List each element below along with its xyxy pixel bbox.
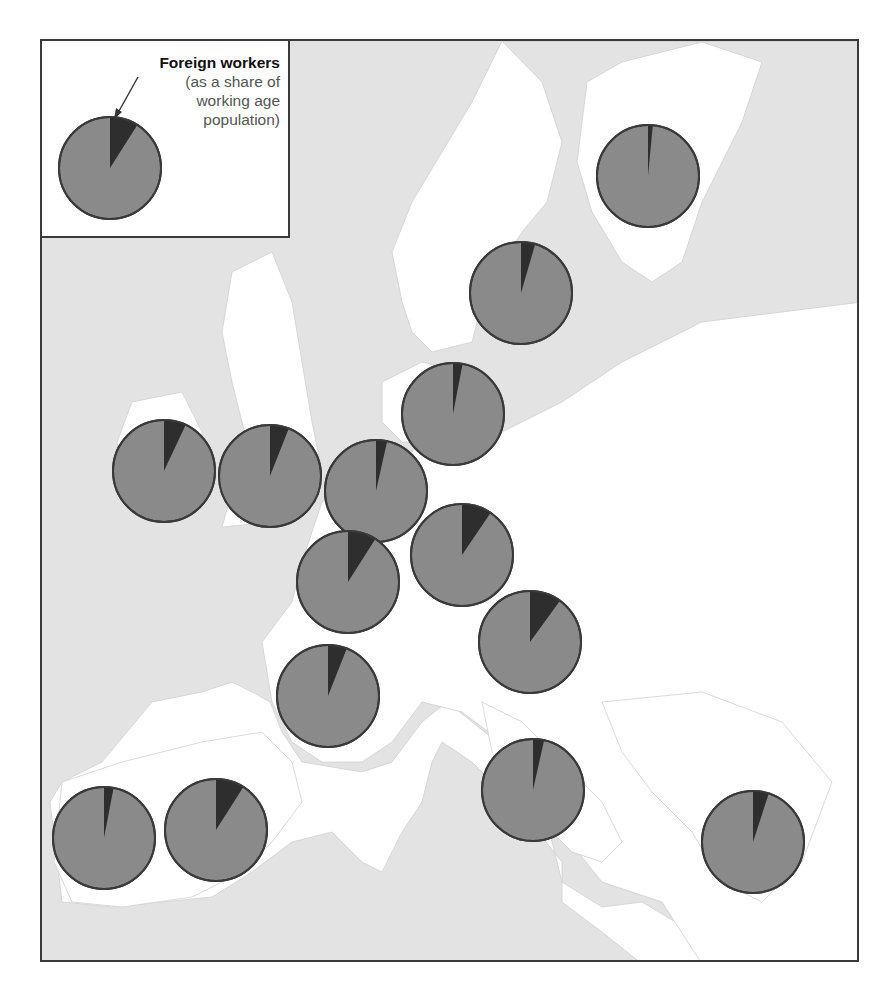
pie-austria	[479, 591, 581, 693]
pie-spain	[165, 779, 267, 881]
pie-portugal	[53, 787, 155, 889]
legend-arrow-icon	[119, 77, 138, 111]
legend-title-main: Foreign workers	[159, 53, 280, 72]
pie-denmark	[402, 363, 504, 465]
legend-title: Foreign workers (as a share of working a…	[159, 53, 280, 129]
pie-united-kingdom	[219, 425, 321, 527]
pie-france	[277, 645, 379, 747]
pie-italy	[482, 739, 584, 841]
legend-subtitle-line-1: (as a share of	[159, 72, 280, 91]
pie-belgium	[297, 531, 399, 633]
pie-netherlands	[325, 440, 427, 542]
legend-subtitle-line-2: working age	[159, 91, 280, 110]
pie-finland	[597, 125, 699, 227]
pie-germany	[411, 504, 513, 606]
pie-legend-example	[59, 117, 161, 219]
legend-pie	[59, 117, 161, 219]
pie-greece	[702, 791, 804, 893]
pie-ireland	[113, 420, 215, 522]
legend-box: Foreign workers (as a share of working a…	[40, 39, 290, 238]
legend-subtitle-line-3: population)	[159, 110, 280, 129]
pie-sweden	[470, 242, 572, 344]
